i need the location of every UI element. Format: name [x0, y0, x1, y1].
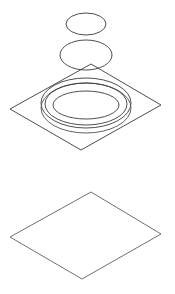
- lower-plate-shape: [10, 192, 161, 279]
- ring-center-recess-shape: [53, 91, 119, 119]
- upper-plate-shape: [10, 64, 161, 150]
- ring-outer-top-shape: [41, 78, 131, 128]
- middle-disc-shape: [60, 40, 112, 70]
- top-disc-shape: [66, 13, 106, 35]
- exploded-isometric-diagram: [0, 0, 175, 294]
- diagram-shapes: [10, 13, 161, 279]
